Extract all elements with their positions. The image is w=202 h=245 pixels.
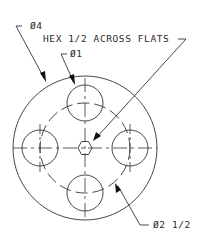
label-outer-diameter: Ø4 <box>30 20 43 31</box>
label-bolt-circle: Ø2 1/2 <box>153 219 191 230</box>
hole-left <box>22 124 58 172</box>
leader-hex <box>93 39 186 141</box>
label-hex: HEX 1/2 ACROSS FLATS <box>43 33 169 44</box>
leader-outer-diameter <box>16 26 46 82</box>
technical-drawing: Ø4 Ø1 HEX 1/2 ACROSS FLATS Ø2 1/2 <box>0 0 202 245</box>
label-hole-diameter: Ø1 <box>70 48 83 59</box>
